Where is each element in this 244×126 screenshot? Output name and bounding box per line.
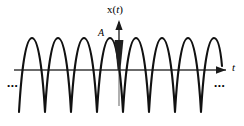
origin-wedge-marker [115,40,124,70]
x-axis-label: t [232,62,235,73]
ellipsis-left: ... [7,76,18,89]
y-axis-label-suffix: ) [119,3,123,15]
y-axis-label-prefix: x( [107,3,116,15]
y-axis-arrow-icon [115,20,122,30]
amplitude-label: A [98,28,104,38]
waveform-plot [0,0,244,126]
ellipsis-right: ... [214,76,225,89]
waveform-figure: x(t) t A ... ... [0,0,244,126]
y-axis-label: x(t) [107,4,123,15]
t-axis-arrow-icon [216,66,226,74]
